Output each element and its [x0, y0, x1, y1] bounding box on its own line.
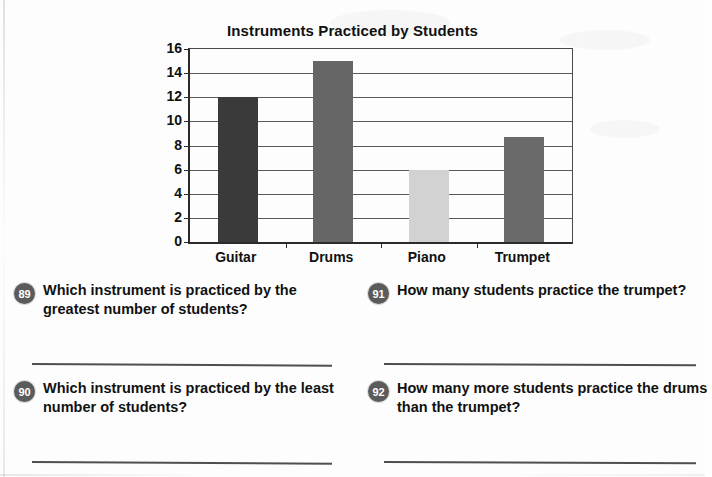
- y-axis: 0246810121416: [146, 0, 182, 278]
- question-cell-91: 91 How many students practice the trumpe…: [368, 281, 712, 379]
- y-axis-tick-mark: [184, 49, 190, 50]
- question-row: 89 Which instrument is practiced by the …: [0, 281, 705, 379]
- answer-line[interactable]: [32, 461, 332, 465]
- answer-line[interactable]: [384, 363, 696, 366]
- y-axis-tick-label: 10: [148, 113, 182, 127]
- question-text: How many more students practice the drum…: [397, 379, 709, 416]
- y-axis-tick-mark: [184, 121, 190, 122]
- x-axis-tick-mark: [286, 242, 287, 248]
- x-axis-tick-label: Drums: [281, 249, 381, 265]
- x-axis-tick-mark: [381, 242, 382, 248]
- bar-guitar: [218, 97, 258, 242]
- y-axis-tick-mark: [184, 218, 190, 219]
- question-number-badge: 92: [368, 381, 389, 402]
- gridline: [190, 73, 572, 74]
- answer-line[interactable]: [32, 363, 332, 367]
- y-axis-tick-label: 8: [148, 138, 182, 152]
- bar-trumpet: [504, 137, 544, 242]
- questions-section: 89 Which instrument is practiced by the …: [0, 281, 705, 477]
- question-number-badge: 91: [368, 283, 389, 304]
- x-axis-tick-label: Trumpet: [472, 249, 572, 265]
- question-cell-90: 90 Which instrument is practiced by the …: [14, 379, 359, 477]
- y-axis-tick-label: 16: [148, 41, 182, 55]
- question-number-badge: 89: [14, 283, 35, 304]
- answer-line[interactable]: [384, 461, 696, 464]
- question-row: 90 Which instrument is practiced by the …: [0, 379, 705, 477]
- question-text: Which instrument is practiced by the lea…: [43, 379, 355, 416]
- bar-chart: Instruments Practiced by Students 024681…: [0, 0, 705, 278]
- question-text: Which instrument is practiced by the gre…: [43, 281, 355, 318]
- question-cell-89: 89 Which instrument is practiced by the …: [14, 281, 359, 379]
- question-number-badge: 90: [14, 381, 35, 402]
- y-axis-tick-mark: [184, 170, 190, 171]
- chart-title: Instruments Practiced by Students: [0, 22, 705, 39]
- y-axis-tick-label: 2: [148, 210, 182, 224]
- y-axis-tick-label: 12: [148, 89, 182, 103]
- y-axis-tick-mark: [184, 242, 190, 243]
- y-axis-tick-mark: [184, 97, 190, 98]
- question-text: How many students practice the trumpet?: [397, 281, 686, 300]
- x-axis-tick-label: Guitar: [186, 249, 286, 265]
- x-axis-tick-label: Piano: [377, 249, 477, 265]
- question-cell-92: 92 How many more students practice the d…: [368, 379, 712, 477]
- y-axis-tick-label: 4: [148, 186, 182, 200]
- y-axis-tick-mark: [184, 73, 190, 74]
- plot-area: [188, 48, 573, 244]
- bar-drums: [313, 61, 353, 242]
- x-axis-tick-mark: [477, 242, 478, 248]
- y-axis-tick-mark: [184, 194, 190, 195]
- y-axis-tick-label: 6: [148, 162, 182, 176]
- bar-piano: [409, 170, 449, 242]
- y-axis-tick-mark: [184, 146, 190, 147]
- y-axis-tick-label: 14: [148, 65, 182, 79]
- y-axis-tick-label: 0: [148, 234, 182, 248]
